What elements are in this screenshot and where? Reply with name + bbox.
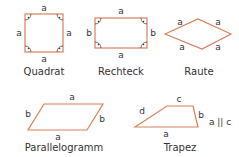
raute-figure: a a a a Raute bbox=[165, 17, 231, 77]
side-label-top: a bbox=[118, 6, 124, 16]
side-label-top: c bbox=[177, 94, 182, 104]
parallelogram-outline bbox=[28, 104, 103, 130]
side-label-bottom-right: a bbox=[215, 42, 221, 52]
side-label-top: a bbox=[69, 92, 75, 102]
side-label-left: b bbox=[86, 28, 92, 38]
side-label-right: b bbox=[99, 114, 105, 124]
shape-name: Raute bbox=[184, 66, 213, 77]
right-angle-dots bbox=[28, 17, 61, 50]
side-label-bottom: a bbox=[163, 129, 169, 139]
side-label-right: a bbox=[66, 28, 72, 38]
shapes-diagram: a a a a Quadrat a a b b Rechteck a a a a… bbox=[0, 0, 239, 157]
square-outline bbox=[25, 14, 63, 52]
parallelogramm-figure: a a b b Parallelogramm bbox=[25, 92, 105, 153]
rectangle-outline bbox=[95, 18, 147, 48]
right-angle-dots bbox=[98, 21, 145, 46]
side-label-top-left: a bbox=[177, 17, 183, 27]
side-label-bottom: a bbox=[118, 50, 124, 60]
side-label-left: a bbox=[16, 28, 22, 38]
rechteck-figure: a a b b Rechteck bbox=[86, 6, 156, 77]
side-label-left: d bbox=[139, 106, 145, 116]
side-label-bottom: a bbox=[55, 132, 61, 142]
right-angle-marks bbox=[25, 14, 63, 52]
side-label-right: b bbox=[198, 110, 204, 120]
side-label-bottom: a bbox=[41, 54, 47, 64]
shape-name: Parallelogramm bbox=[25, 142, 104, 153]
shape-name: Rechteck bbox=[98, 66, 144, 77]
shape-name: Trapez bbox=[163, 142, 197, 153]
side-label-top: a bbox=[41, 3, 47, 13]
side-label-bottom-left: a bbox=[179, 42, 185, 52]
side-label-top-right: a bbox=[215, 17, 221, 27]
right-angle-marks bbox=[95, 18, 147, 48]
trapez-figure: c a d b a || c Trapez bbox=[135, 94, 231, 153]
side-label-right: b bbox=[150, 28, 156, 38]
rhombus-outline bbox=[165, 19, 231, 49]
side-label-left: b bbox=[25, 109, 31, 119]
parallel-note: a || c bbox=[209, 117, 231, 127]
shape-name: Quadrat bbox=[24, 66, 65, 77]
quadrat-figure: a a a a Quadrat bbox=[16, 3, 72, 77]
